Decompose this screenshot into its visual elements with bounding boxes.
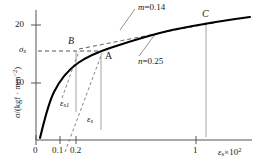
x-tick-label-0: 0 bbox=[33, 146, 38, 155]
point-label-a: A bbox=[105, 51, 112, 61]
m-leader-line bbox=[120, 9, 135, 30]
y-axis-title-close: ) bbox=[12, 67, 22, 70]
strain-label-eps-s: εs bbox=[87, 115, 93, 125]
x-axis-title-rest: ×10 bbox=[224, 147, 238, 157]
annotation-n-exponent: n=0.25 bbox=[138, 57, 163, 66]
strain-label-eps-s1: εs1 bbox=[60, 99, 69, 109]
figure-stress-strain-curve: σ/(kgf · mm−2) 20 10 σs 0 0.1 0.2 1 εs×1… bbox=[0, 0, 259, 165]
point-label-b: B bbox=[68, 36, 74, 46]
y-tick-label-10: 10 bbox=[15, 78, 24, 87]
y-tick-label-sigma-s: σs bbox=[19, 45, 26, 55]
n-value: =0.25 bbox=[143, 56, 164, 66]
sigma-subscript: s bbox=[23, 47, 26, 54]
eps-s-subscript: s bbox=[91, 117, 94, 124]
y-tick-label-20: 20 bbox=[15, 20, 24, 29]
x-tick-label-0-2: 0.2 bbox=[70, 146, 81, 155]
annotation-m-exponent: m=0.14 bbox=[138, 3, 165, 12]
point-label-c: C bbox=[202, 9, 209, 19]
eps-s1-subscript: s1 bbox=[64, 101, 70, 108]
x-tick-label-0-1: 0.1 bbox=[52, 146, 63, 155]
x-tick-label-1: 1 bbox=[193, 146, 198, 155]
y-axis-title-exponent: −2 bbox=[11, 70, 18, 77]
chart-canvas bbox=[0, 0, 259, 165]
y-axis-title: σ/(kgf · mm−2) bbox=[11, 67, 22, 118]
x-axis-title-exponent: 2 bbox=[238, 146, 241, 153]
x-axis-title: εs×102 bbox=[218, 147, 241, 158]
m-value: =0.14 bbox=[145, 2, 166, 12]
